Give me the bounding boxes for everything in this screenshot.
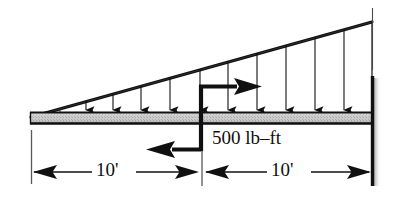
- moment-label: 500 lb–ft: [212, 128, 281, 147]
- diagram-canvas: [0, 0, 404, 200]
- couple-top-arrowhead-right: [234, 78, 262, 95]
- statics-beam-diagram: 500 lb–ft 10' 10': [0, 0, 404, 200]
- fixed-support-group: [373, 8, 382, 186]
- dimension-label-right: 10': [271, 160, 293, 179]
- couple-bottom-arrowhead-left: [146, 141, 175, 158]
- wall-shadow: [374, 78, 381, 186]
- dimension-label-left: 10': [96, 160, 118, 179]
